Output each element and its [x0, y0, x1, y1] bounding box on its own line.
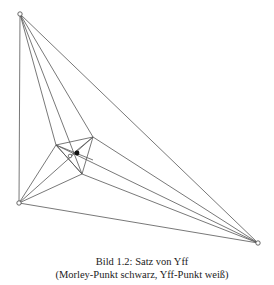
edge-ab — [19, 14, 20, 203]
inner-line-3 — [56, 145, 93, 160]
cevian-c-p2 — [93, 137, 258, 243]
vertex-b-marker — [17, 201, 21, 205]
cevian-a-p2 — [20, 14, 93, 137]
figure-caption-legend: (Morley-Punkt schwarz, Yff-Punkt weiß) — [22, 269, 262, 280]
cevian-c-p3 — [82, 174, 258, 243]
geometry-diagram — [0, 0, 274, 285]
morley-point-marker — [75, 151, 80, 156]
vertex-c-marker — [256, 241, 260, 245]
figure-caption-title: Bild 1.2: Satz von Yff — [22, 256, 262, 267]
cevian-a-p1 — [20, 14, 56, 145]
yff-theorem-figure: Bild 1.2: Satz von Yff (Morley-Punkt sch… — [0, 0, 274, 285]
yff-point-marker — [68, 154, 72, 158]
vertex-a-marker — [18, 12, 22, 16]
cevian-b-p2 — [19, 137, 93, 203]
edge-ac — [20, 14, 258, 243]
cevian-a-p3 — [20, 14, 82, 174]
